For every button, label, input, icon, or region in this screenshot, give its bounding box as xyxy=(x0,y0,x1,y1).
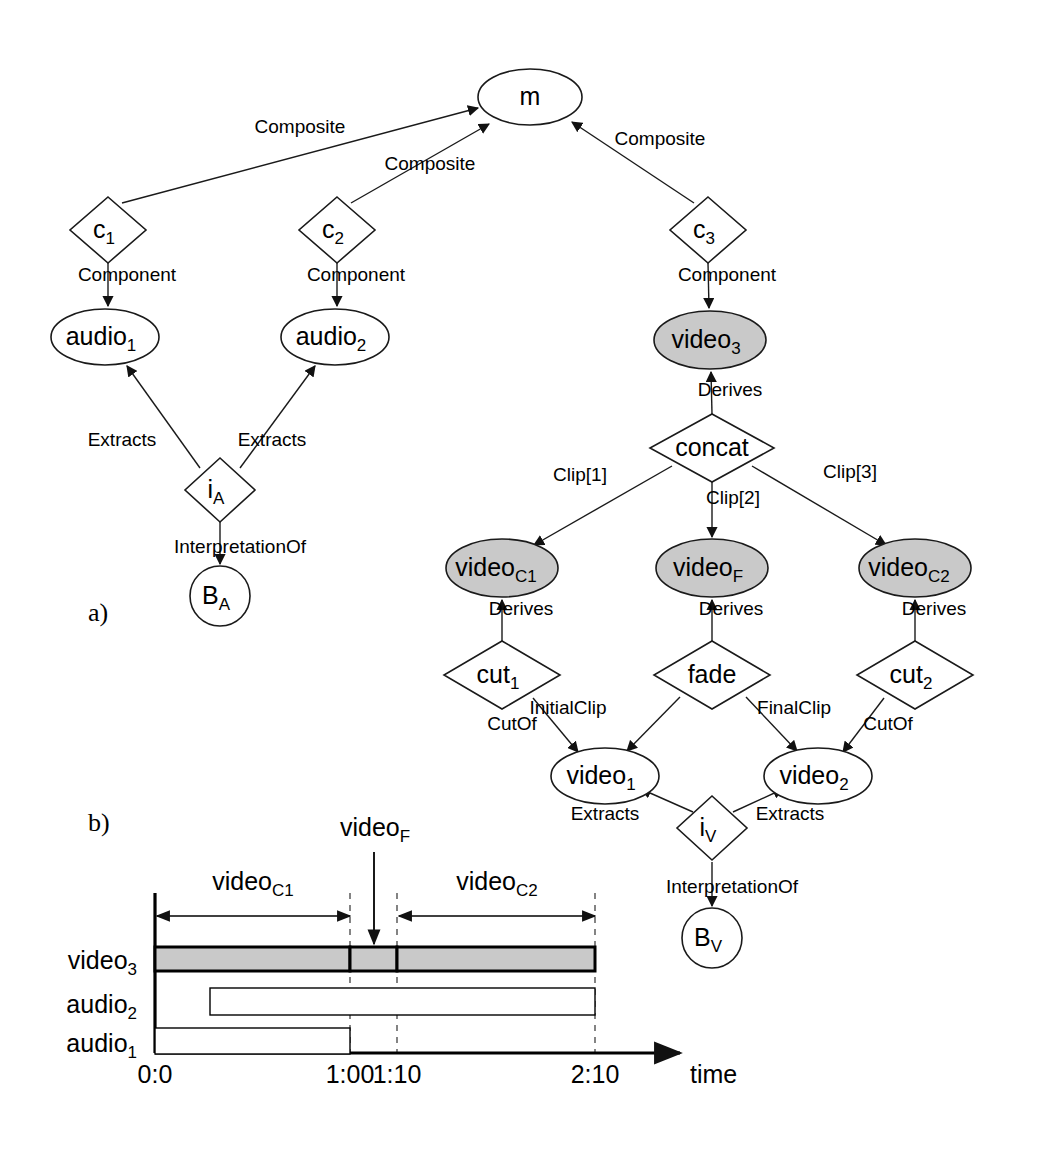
node-c2[interactable]: c2 xyxy=(299,197,375,263)
edge-label: Extracts xyxy=(88,429,157,450)
node-video3[interactable]: video3 xyxy=(654,311,766,369)
timeline-axis-label: time xyxy=(690,1060,737,1088)
edge-label: Clip[3] xyxy=(823,461,877,482)
timeline-row-label: audio1 xyxy=(66,1029,137,1062)
edge-iA-to-audio2: Extracts xyxy=(238,366,315,468)
edge-fade-to-video1: InitialClip xyxy=(529,697,680,751)
edge-label: Composite xyxy=(615,128,706,149)
node-BV[interactable]: BV xyxy=(682,908,742,968)
node-fade[interactable]: fade xyxy=(654,641,770,709)
edge-c3-to-m: Composite xyxy=(572,122,705,203)
edge-label: Extracts xyxy=(238,429,307,450)
edge-concat-to-video3: Derives xyxy=(698,372,762,414)
edge-concat-to-videoF: Clip[2] xyxy=(706,482,760,537)
edge-label: InterpretationOf xyxy=(174,536,307,557)
node-label-fade: fade xyxy=(688,660,737,688)
edge-label: Extracts xyxy=(756,803,825,824)
edge-concat-to-videoC1: Clip[1] xyxy=(534,464,672,545)
node-iV[interactable]: iV xyxy=(677,796,747,860)
timeline-span-label: videoC2 xyxy=(456,867,538,900)
edge-fade-to-videoF: Derives xyxy=(699,598,763,641)
figure-svg: CompositeCompositeCompositeComponentComp… xyxy=(0,0,1040,1175)
timeline-layer: video3audio2audio1videoC1videoC2videoF0:… xyxy=(66,813,737,1088)
node-cut2[interactable]: cut2 xyxy=(857,641,973,709)
node-m[interactable]: m xyxy=(478,69,582,125)
edge-label: Component xyxy=(307,264,406,285)
edge-label: Derives xyxy=(902,598,966,619)
timeline-row-label: video3 xyxy=(68,946,137,979)
timeline-tick-label: 2:10 xyxy=(571,1060,620,1088)
panel-label-a: a) xyxy=(88,598,108,628)
timeline-bar-audio1[interactable] xyxy=(155,1028,350,1054)
figure-canvas: CompositeCompositeCompositeComponentComp… xyxy=(0,0,1040,1175)
timeline-pointer-label: videoF xyxy=(340,813,410,846)
edge-label: Derives xyxy=(698,379,762,400)
node-label-m: m xyxy=(520,82,541,110)
node-audio2[interactable]: audio2 xyxy=(281,309,389,365)
edge-label: Composite xyxy=(385,153,476,174)
timeline-bar-video3[interactable] xyxy=(155,947,350,971)
edge-label: FinalClip xyxy=(757,697,831,718)
node-label-concat: concat xyxy=(675,433,749,461)
edge-label: CutOf xyxy=(863,713,913,734)
node-c1[interactable]: c1 xyxy=(70,197,146,263)
node-videoF[interactable]: videoF xyxy=(656,539,768,597)
edge-label: Clip[1] xyxy=(553,464,607,485)
node-layer: mc1c2c3audio1audio2video3iABAconcatvideo… xyxy=(51,69,973,968)
timeline-tick-label: 1:10 xyxy=(373,1060,422,1088)
node-audio1[interactable]: audio1 xyxy=(51,309,159,365)
timeline-span-label: videoC1 xyxy=(212,867,294,900)
timeline-tick-label: 0:0 xyxy=(138,1060,173,1088)
edge-label: InterpretationOf xyxy=(666,876,799,897)
timeline-tick-label: 1:00 xyxy=(326,1060,375,1088)
node-videoC1[interactable]: videoC1 xyxy=(446,539,558,597)
node-concat[interactable]: concat xyxy=(650,414,774,482)
timeline-row-label: audio2 xyxy=(66,990,137,1023)
node-videoC2[interactable]: videoC2 xyxy=(859,539,971,597)
node-c3[interactable]: c3 xyxy=(670,197,746,263)
edge-concat-to-videoC2: Clip[3] xyxy=(752,461,886,545)
edge-iA-to-BA: InterpretationOf xyxy=(174,522,307,564)
edge-label: Extracts xyxy=(571,803,640,824)
timeline-bar-video3[interactable] xyxy=(350,947,397,971)
node-video2[interactable]: video2 xyxy=(764,748,872,804)
edge-label: Derives xyxy=(699,598,763,619)
node-video1[interactable]: video1 xyxy=(551,748,659,804)
edge-c1-to-audio1: Component xyxy=(78,263,177,306)
timeline-bar-audio2[interactable] xyxy=(210,988,595,1015)
edge-c3-to-video3: Component xyxy=(678,263,777,308)
edge-label: Component xyxy=(678,264,777,285)
panel-label-b: b) xyxy=(88,808,110,838)
edge-c2-to-audio2: Component xyxy=(307,263,406,306)
edge-label: Component xyxy=(78,264,177,285)
edge-cut2-to-videoC2: Derives xyxy=(902,598,966,641)
edge-cut1-to-videoC1: Derives xyxy=(489,598,553,641)
node-BA[interactable]: BA xyxy=(190,566,250,626)
edge-label: Composite xyxy=(255,116,346,137)
edge-iA-to-audio1: Extracts xyxy=(88,366,200,468)
edge-label: InitialClip xyxy=(529,697,606,718)
edge-cut2-to-video2: CutOf xyxy=(843,698,914,752)
edge-fade-to-video2: FinalClip xyxy=(746,697,831,751)
edge-label: Clip[2] xyxy=(706,487,760,508)
node-iA[interactable]: iA xyxy=(185,458,255,522)
edge-iV-to-BV: InterpretationOf xyxy=(666,862,799,906)
timeline-bar-video3[interactable] xyxy=(397,947,595,971)
edge-label: Derives xyxy=(489,598,553,619)
